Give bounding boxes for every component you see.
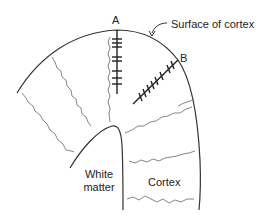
fiber-right-middle [129,151,195,163]
probe-b [133,60,178,104]
white-matter-label-line1: White [82,168,116,181]
fiber-left-inner [52,57,91,126]
cortex-diagram [0,0,265,222]
probe-a [112,30,122,94]
fiber-right-lower [127,196,194,203]
fiber-right-upper [125,107,192,133]
surface-of-cortex-label: Surface of cortex [171,18,254,31]
fiber-right-top-short [178,99,194,106]
arrowhead-icon [149,31,155,36]
probe-b-label: B [180,52,187,65]
white-matter-label: White matter [82,168,116,194]
fiber-center [108,37,110,122]
white-matter-label-line2: matter [82,181,116,194]
cortex-label: Cortex [148,176,180,189]
probe-a-label: A [112,14,119,27]
fiber-left-outer [22,93,74,152]
